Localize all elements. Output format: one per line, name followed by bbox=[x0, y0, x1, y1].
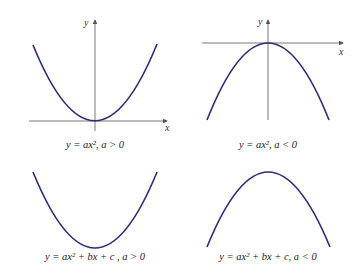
caption-bottom-right: y = ax² + bx + c, a < 0 bbox=[219, 251, 316, 262]
curve-bottom-right bbox=[207, 172, 330, 247]
axis-label-y: y bbox=[258, 16, 262, 27]
parabola-diagram bbox=[0, 0, 355, 279]
curve-bottom-left bbox=[33, 172, 157, 248]
caption-top-left: y = ax², a > 0 bbox=[66, 139, 124, 150]
axis-label-y: y bbox=[84, 17, 88, 28]
caption-bottom-left: y = ax² + bx + c , a > 0 bbox=[45, 251, 145, 262]
panel-top-right-axes bbox=[202, 20, 343, 120]
axis-label-x: x bbox=[339, 46, 343, 57]
axis-label-x: x bbox=[165, 122, 169, 133]
panel-top-left-axes bbox=[29, 20, 167, 131]
caption-top-right: y = ax², a < 0 bbox=[239, 139, 297, 150]
